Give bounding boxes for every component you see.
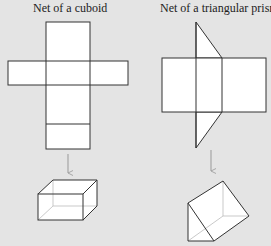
nets-diagram (0, 0, 271, 246)
prism-3d (188, 181, 249, 241)
cuboid-3d (38, 180, 97, 220)
cuboid-net (8, 22, 128, 149)
prism-net (162, 22, 266, 148)
